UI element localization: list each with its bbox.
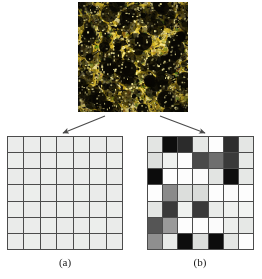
grid-a-cell-4-4 — [74, 202, 89, 217]
grid-a-cell-3-5 — [90, 185, 105, 200]
grid-b-cell-2-6 — [239, 169, 253, 184]
grid-a-cell-4-0 — [8, 202, 23, 217]
grid-a-cell-3-6 — [107, 185, 122, 200]
grid-b-cell-5-5 — [224, 218, 238, 233]
grid-a-cell-0-0 — [8, 137, 23, 152]
grid-b-cell-3-1 — [163, 185, 177, 200]
grid-a-cell-6-2 — [41, 234, 56, 249]
grid-a-cell-5-5 — [90, 218, 105, 233]
grid-b-cell-3-6 — [239, 185, 253, 200]
grid-a-cell-0-3 — [57, 137, 72, 152]
grid-a-cell-4-3 — [57, 202, 72, 217]
grid-a-cell-1-0 — [8, 153, 23, 168]
grid-b-cell-6-1 — [163, 234, 177, 249]
grid-a-cell-2-6 — [107, 169, 122, 184]
grid-a-cell-5-2 — [41, 218, 56, 233]
grid-b-cell-1-1 — [163, 153, 177, 168]
grid-a-cell-3-0 — [8, 185, 23, 200]
grid-variable-b — [147, 136, 254, 250]
grid-b-cell-4-2 — [178, 202, 192, 217]
grid-b-cell-1-0 — [148, 153, 162, 168]
grid-b-cell-0-5 — [224, 137, 238, 152]
arrow-to-grid-a — [63, 116, 105, 133]
grid-a-cell-5-4 — [74, 218, 89, 233]
grid-a-cell-6-3 — [57, 234, 72, 249]
grid-b-cell-2-4 — [209, 169, 223, 184]
grid-a-cell-3-2 — [41, 185, 56, 200]
grid-b-cell-4-4 — [209, 202, 223, 217]
grid-a-cell-5-1 — [24, 218, 39, 233]
grid-b-cell-3-3 — [193, 185, 207, 200]
grid-b-cell-1-4 — [209, 153, 223, 168]
grid-a-cell-0-5 — [90, 137, 105, 152]
figure-footer-artifact — [18, 274, 244, 279]
grid-a-cell-3-3 — [57, 185, 72, 200]
grid-b-cell-3-4 — [209, 185, 223, 200]
grid-b-cell-4-5 — [224, 202, 238, 217]
grid-a-cell-4-6 — [107, 202, 122, 217]
grid-b-cell-3-2 — [178, 185, 192, 200]
figure-root: (a) (b) — [0, 0, 262, 279]
grid-b-cell-1-3 — [193, 153, 207, 168]
grid-b-cell-5-2 — [178, 218, 192, 233]
grid-b-cell-6-6 — [239, 234, 253, 249]
grid-a-cell-2-0 — [8, 169, 23, 184]
grid-b-cell-3-5 — [224, 185, 238, 200]
grid-b-cell-6-0 — [148, 234, 162, 249]
grid-b-cell-0-2 — [178, 137, 192, 152]
grid-a-cell-1-2 — [41, 153, 56, 168]
grid-b-cell-5-6 — [239, 218, 253, 233]
grid-b-cell-4-3 — [193, 202, 207, 217]
grid-b-cell-0-4 — [209, 137, 223, 152]
grid-a-cell-1-4 — [74, 153, 89, 168]
grid-a-cell-2-4 — [74, 169, 89, 184]
texture-canvas — [78, 2, 188, 112]
caption-a: (a) — [35, 256, 95, 269]
grid-a-cell-3-1 — [24, 185, 39, 200]
grid-b-cell-4-1 — [163, 202, 177, 217]
grid-a-cell-1-6 — [107, 153, 122, 168]
grid-b-cell-0-1 — [163, 137, 177, 152]
grid-b-cell-6-3 — [193, 234, 207, 249]
grid-b-cell-0-6 — [239, 137, 253, 152]
grid-b-cell-1-6 — [239, 153, 253, 168]
grid-a-cell-5-6 — [107, 218, 122, 233]
grid-b-cell-0-3 — [193, 137, 207, 152]
grid-a-cell-1-3 — [57, 153, 72, 168]
grid-b-cell-0-0 — [148, 137, 162, 152]
grid-a-cell-6-6 — [107, 234, 122, 249]
arrow-to-grid-b — [160, 116, 205, 133]
grid-b-cell-5-3 — [193, 218, 207, 233]
grid-a-cell-4-1 — [24, 202, 39, 217]
grid-a-cell-0-2 — [41, 137, 56, 152]
grid-a-cell-0-1 — [24, 137, 39, 152]
grid-b-cell-4-6 — [239, 202, 253, 217]
grid-b-cell-5-1 — [163, 218, 177, 233]
grid-b-cell-2-1 — [163, 169, 177, 184]
grid-b-cell-1-2 — [178, 153, 192, 168]
grid-b-cell-6-5 — [224, 234, 238, 249]
grid-a-cell-1-5 — [90, 153, 105, 168]
grid-b-cell-1-5 — [224, 153, 238, 168]
grid-b-cell-2-2 — [178, 169, 192, 184]
grid-a-cell-2-5 — [90, 169, 105, 184]
grid-a-cell-3-4 — [74, 185, 89, 200]
grid-a-cell-6-4 — [74, 234, 89, 249]
grid-a-cell-1-1 — [24, 153, 39, 168]
grid-a-cell-2-3 — [57, 169, 72, 184]
source-texture-image — [78, 2, 188, 112]
grid-a-cell-0-6 — [107, 137, 122, 152]
grid-uniform-a — [7, 136, 123, 250]
grid-a-cell-4-2 — [41, 202, 56, 217]
grid-b-cell-2-5 — [224, 169, 238, 184]
grid-b-cell-5-4 — [209, 218, 223, 233]
grid-a-cell-4-5 — [90, 202, 105, 217]
grid-b-cell-3-0 — [148, 185, 162, 200]
grid-a-cell-5-3 — [57, 218, 72, 233]
grid-a-cell-6-5 — [90, 234, 105, 249]
grid-b-cell-2-3 — [193, 169, 207, 184]
grid-b-cell-5-0 — [148, 218, 162, 233]
grid-b-cell-2-0 — [148, 169, 162, 184]
grid-b-cell-6-2 — [178, 234, 192, 249]
grid-a-cell-6-0 — [8, 234, 23, 249]
